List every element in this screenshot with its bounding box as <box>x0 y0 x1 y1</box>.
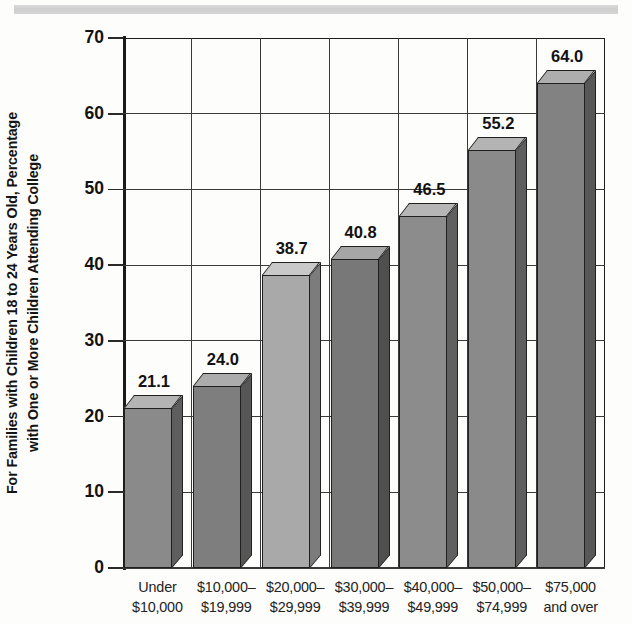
scan-artifact-band <box>14 5 618 14</box>
y-axis-tick-label: 50 <box>48 180 104 198</box>
y-axis-tick <box>108 264 124 266</box>
x-axis-category-label-line: $29,999 <box>261 598 330 618</box>
y-axis-tick <box>108 189 124 191</box>
plot-area: 21.124.038.740.846.555.264.0 <box>123 38 605 568</box>
x-axis-category-label-line: and over <box>536 598 605 618</box>
x-axis-category-label: $40,000–$49,999 <box>398 578 467 622</box>
bar-side-face <box>585 70 596 568</box>
bar-top-face <box>262 262 320 275</box>
bar-front-face <box>468 150 516 568</box>
bar-value-label: 55.2 <box>482 115 514 132</box>
bar <box>537 83 585 568</box>
x-axis-category-label-line: $50,000– <box>467 578 536 598</box>
x-axis-category-labels: Under$10,000$10,000–$19,999$20,000–$29,9… <box>123 578 605 622</box>
y-axis-title-line-2: with One or More Children Attending Coll… <box>23 154 44 452</box>
y-axis-tick-label: 40 <box>48 256 104 274</box>
bar-side-face <box>379 246 390 568</box>
bar-front-face <box>124 408 172 568</box>
bar-value-label: 46.5 <box>413 181 445 198</box>
bar-side-face <box>447 203 458 568</box>
y-axis-tick <box>108 491 124 493</box>
bar <box>193 386 241 568</box>
bar-value-label: 21.1 <box>138 373 170 390</box>
bar <box>399 216 447 568</box>
bar-side-face <box>172 395 183 568</box>
x-axis-category-label: $50,000–$74,999 <box>467 578 536 622</box>
x-axis-category-label-line: $49,999 <box>398 598 467 618</box>
y-axis-tick <box>108 37 124 39</box>
x-axis-category-label-line: $74,999 <box>467 598 536 618</box>
plot-border-right <box>604 38 605 568</box>
horizontal-gridline <box>123 189 605 190</box>
y-axis-tick <box>108 567 124 569</box>
bar-side-face <box>310 262 321 568</box>
x-axis-category-label-line: $30,000– <box>330 578 399 598</box>
bar-front-face <box>399 216 447 568</box>
y-axis-title-line-1: For Families with Children 18 to 24 Year… <box>2 112 23 494</box>
x-axis-category-label: $30,000–$39,999 <box>330 578 399 622</box>
x-axis-category-label-line: $40,000– <box>398 578 467 598</box>
y-axis-tick-label: 10 <box>48 483 104 501</box>
x-axis-category-label-line: $10,000 <box>123 598 192 618</box>
y-axis-tick <box>108 113 124 115</box>
horizontal-gridline <box>123 113 605 114</box>
bar <box>262 275 310 568</box>
y-axis-tick-label: 0 <box>48 559 104 577</box>
x-axis-category-label-line: $20,000– <box>261 578 330 598</box>
plot-border-top <box>123 38 605 39</box>
x-axis-category-label: Under$10,000 <box>123 578 192 622</box>
y-axis-tick <box>108 416 124 418</box>
bar-side-face <box>241 373 252 568</box>
bar-front-face <box>262 275 310 568</box>
y-axis-tick-label: 30 <box>48 332 104 350</box>
bar <box>124 408 172 568</box>
bar-front-face <box>537 83 585 568</box>
x-axis-category-label-line: $19,999 <box>192 598 261 618</box>
bar-value-label: 40.8 <box>345 224 377 241</box>
bar-side-face <box>516 137 527 568</box>
y-axis-tick-label: 70 <box>48 29 104 47</box>
bar <box>468 150 516 568</box>
bar-top-face <box>331 246 389 259</box>
y-axis-tick-label: 20 <box>48 408 104 426</box>
x-axis-category-label-line: $10,000– <box>192 578 261 598</box>
bar-front-face <box>331 259 379 568</box>
x-axis-category-label-line: $39,999 <box>330 598 399 618</box>
bar-value-label: 24.0 <box>207 351 239 368</box>
bar-value-label: 64.0 <box>551 48 583 65</box>
x-axis-category-label: $10,000–$19,999 <box>192 578 261 622</box>
y-axis-title: For Families with Children 18 to 24 Year… <box>0 38 46 568</box>
bar-top-face <box>193 373 251 386</box>
y-axis-tick-label: 60 <box>48 105 104 123</box>
bar <box>331 259 379 568</box>
x-axis-category-label: $20,000–$29,999 <box>261 578 330 622</box>
y-axis-tick <box>108 340 124 342</box>
bar-value-label: 38.7 <box>276 240 308 257</box>
bar-front-face <box>193 386 241 568</box>
x-axis-category-label-line: Under <box>123 578 192 598</box>
x-axis-category-label: $75,000and over <box>536 578 605 622</box>
x-axis-category-label-line: $75,000 <box>536 578 605 598</box>
